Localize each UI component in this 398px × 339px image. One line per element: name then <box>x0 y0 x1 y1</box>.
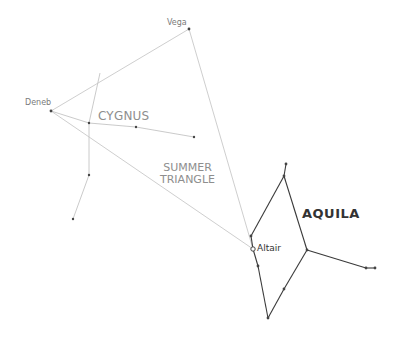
cygnus-star-icon <box>88 174 90 176</box>
aquila-star-icon <box>283 175 286 178</box>
cygnus-label: CYGNUS <box>98 110 149 122</box>
cygnus-edge <box>136 127 194 137</box>
cygnus-star-icon <box>135 126 137 128</box>
summer-triangle-lines <box>51 29 253 249</box>
aquila-star-icon <box>365 267 368 270</box>
aquila-star-icon <box>250 235 253 238</box>
aquila-edge <box>268 289 284 318</box>
cygnus-constellation-lines <box>51 73 194 219</box>
cygnus-star-icon <box>193 136 195 138</box>
aquila-star-icon <box>374 267 377 270</box>
aquila-star-icon <box>283 288 286 291</box>
cygnus-star-icon <box>88 122 90 124</box>
cygnus-edge <box>51 111 89 123</box>
aquila-edge <box>307 250 366 268</box>
aquila-edge <box>284 164 286 176</box>
altair-star-icon <box>251 247 255 251</box>
summer-triangle-label: SUMMER TRIANGLE <box>160 162 215 186</box>
aquila-label: AQUILA <box>302 207 360 220</box>
altair-label: Altair <box>257 244 281 253</box>
aquila-edge <box>258 266 268 318</box>
aquila-edge <box>284 250 307 289</box>
aquila-edge <box>251 176 284 236</box>
aquila-star-icon <box>257 265 260 268</box>
triangle-edge <box>51 29 189 111</box>
triangle-edge <box>189 29 253 249</box>
cygnus-star-icon <box>72 218 74 220</box>
aquila-star-icon <box>267 317 270 320</box>
vega-star-icon <box>188 28 191 31</box>
vega-label: Vega <box>167 19 187 27</box>
cygnus-edge <box>73 175 89 219</box>
aquila-star-icon <box>285 163 288 166</box>
deneb-label: Deneb <box>25 99 51 107</box>
aquila-constellation-lines <box>251 164 375 318</box>
cygnus-edge <box>89 123 136 127</box>
summer-triangle-label-line2: TRIANGLE <box>160 174 215 186</box>
aquila-star-icon <box>306 249 309 252</box>
deneb-star-icon <box>50 110 53 113</box>
triangle-edge <box>51 111 253 249</box>
